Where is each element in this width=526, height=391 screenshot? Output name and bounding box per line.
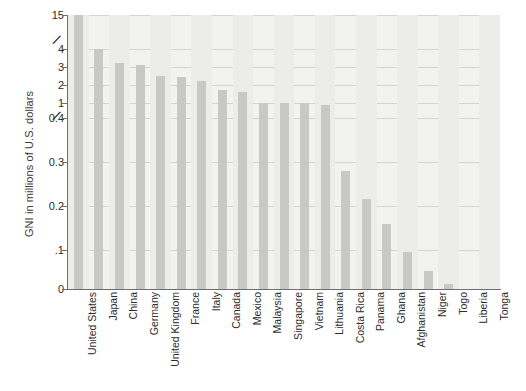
x-axis-label-0: United States <box>82 292 94 355</box>
y-tick-label-0: 15 <box>6 10 64 20</box>
y-axis-tick-group: 1543210.40.30.2.10⁄⁄⁄⁄ <box>0 0 64 391</box>
x-axis-label-7: Canada <box>226 292 238 329</box>
bar-panama[interactable] <box>362 199 371 289</box>
bar-united-kingdom[interactable] <box>156 76 165 289</box>
x-axis-label-text: Afghanistan <box>415 292 427 347</box>
x-axis-label-19: Liberia <box>473 292 485 324</box>
column-band <box>479 15 500 289</box>
x-axis-label-text: Ghana <box>395 292 407 324</box>
y-tick-label-3: 2 <box>6 80 64 90</box>
gni-bar-chart: GNI in millions of U.S. dollars 1543210.… <box>0 0 526 391</box>
x-axis-label-2: China <box>123 292 135 319</box>
x-axis-label-8: Mexico <box>247 292 259 325</box>
x-axis-label-13: Costa Rica <box>350 292 362 343</box>
x-axis-label-group: United StatesJapanChinaGermanyUnited Kin… <box>68 292 500 391</box>
x-axis-label-6: Italy <box>206 292 218 311</box>
bar-mexico[interactable] <box>238 92 247 289</box>
x-axis-label-text: Singapore <box>292 292 304 340</box>
x-axis-label-text: Canada <box>230 292 242 329</box>
bar-united-states[interactable] <box>74 15 83 289</box>
y-tick-label-4: 1 <box>6 98 64 108</box>
bar-italy[interactable] <box>197 81 206 289</box>
column-band <box>438 15 459 289</box>
x-axis-label-text: Lithuania <box>333 292 345 335</box>
y-axis-line <box>67 15 68 290</box>
x-axis-label-text: Costa Rica <box>354 292 366 343</box>
x-axis-label-16: Afghanistan <box>411 292 423 347</box>
x-axis-label-11: Vietnam <box>309 292 321 330</box>
x-axis-label-10: Singapore <box>288 292 300 340</box>
x-axis-label-12: Lithuania <box>329 292 341 335</box>
bar-ghana[interactable] <box>382 224 391 289</box>
x-axis-label-text: United Kingdom <box>169 292 181 367</box>
x-axis-label-text: Germany <box>148 292 160 335</box>
x-axis-label-text: Niger <box>436 292 448 317</box>
y-tick-label-6: 0.3 <box>6 157 64 167</box>
y-tick-label-2: 3 <box>6 62 64 72</box>
bar-france[interactable] <box>177 77 186 289</box>
x-axis-label-20: Tonga <box>494 292 506 321</box>
x-axis-label-text: Japan <box>107 292 119 321</box>
x-axis-label-text: China <box>127 292 139 319</box>
x-axis-label-text: Togo <box>457 292 469 315</box>
y-tick-label-8: .1 <box>6 245 64 255</box>
bar-japan[interactable] <box>94 49 103 289</box>
bar-canada[interactable] <box>218 90 227 290</box>
x-axis-label-18: Togo <box>453 292 465 315</box>
bar-china[interactable] <box>115 63 124 289</box>
y-tick-label-7: 0.2 <box>6 201 64 211</box>
column-band <box>397 15 418 289</box>
x-axis-label-text: Mexico <box>251 292 263 325</box>
x-axis-line <box>67 289 501 290</box>
bar-vietnam[interactable] <box>300 103 309 289</box>
bar-afghanistan[interactable] <box>403 252 412 289</box>
x-axis-label-text: United States <box>86 292 98 355</box>
x-axis-label-14: Panama <box>370 292 382 331</box>
x-axis-label-text: Italy <box>210 292 222 311</box>
x-axis-label-4: United Kingdom <box>165 292 177 367</box>
bar-niger[interactable] <box>424 271 433 289</box>
bar-malaysia[interactable] <box>259 103 268 289</box>
x-axis-label-text: Liberia <box>477 292 489 324</box>
x-axis-label-5: France <box>185 292 197 325</box>
x-axis-label-text: France <box>189 292 201 325</box>
bar-singapore[interactable] <box>280 103 289 289</box>
x-axis-label-17: Niger <box>432 292 444 317</box>
x-axis-label-text: Vietnam <box>313 292 325 330</box>
x-axis-label-text: Tonga <box>498 292 510 321</box>
x-axis-label-text: Panama <box>374 292 386 331</box>
bar-costa-rica[interactable] <box>341 171 350 289</box>
x-axis-label-9: Malaysia <box>267 292 279 333</box>
bar-germany[interactable] <box>136 65 145 289</box>
plot-area <box>68 15 500 289</box>
y-tick-label-9: 0 <box>6 284 64 294</box>
x-axis-label-1: Japan <box>103 292 115 321</box>
x-axis-label-15: Ghana <box>391 292 403 324</box>
x-axis-label-3: Germany <box>144 292 156 335</box>
x-axis-label-text: Malaysia <box>271 292 283 333</box>
bar-lithuania[interactable] <box>321 105 330 289</box>
